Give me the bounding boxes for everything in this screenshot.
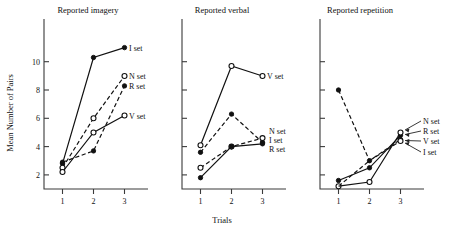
- svg-text:1: 1: [199, 197, 203, 206]
- panel2-x-ticks: [201, 189, 263, 194]
- panel3-x-ticks: [339, 189, 401, 194]
- panel1-y-tick-labels: 2 4 6 8 10: [32, 58, 40, 180]
- panel2-label-v-set: V set: [267, 72, 284, 81]
- panel2-y-ticks: [182, 62, 187, 175]
- panel3-series-labels: N set R set V set I set: [423, 117, 440, 157]
- panel3-label-r-set: R set: [423, 127, 440, 136]
- svg-text:2: 2: [92, 197, 96, 206]
- panel3-axes: [320, 19, 424, 189]
- panel2-series-n-set: [198, 136, 265, 171]
- panel1-label-n-set: N set: [129, 72, 146, 81]
- panel1-title: Reported imagery: [57, 5, 119, 15]
- panel3-leader-lines: [405, 121, 421, 152]
- panel2-label-n-set: N set: [269, 127, 286, 136]
- panel1-x-tick-labels: 1 2 3: [61, 197, 127, 206]
- panel-reported-repetition: Reported repetition 1 2 3: [320, 5, 440, 206]
- panel1-series-i-set: I set: [60, 44, 143, 166]
- svg-text:1: 1: [337, 197, 341, 206]
- svg-text:6: 6: [36, 114, 40, 123]
- x-axis-title: Trials: [212, 215, 232, 225]
- svg-text:3: 3: [261, 197, 265, 206]
- panel3-label-v-set: V set: [423, 137, 440, 146]
- panel2-label-i-set: I set: [269, 136, 283, 145]
- panel1-label-i-set: I set: [129, 44, 143, 53]
- panel1-label-r-set: R set: [129, 82, 146, 91]
- panel3-series-i-set: [336, 88, 402, 163]
- panel1-y-ticks: [44, 62, 49, 175]
- svg-text:2: 2: [230, 197, 234, 206]
- panel1-label-v-set: V set: [129, 112, 146, 121]
- panel2-axes: [182, 19, 286, 189]
- panel3-y-ticks: [320, 62, 325, 175]
- svg-text:10: 10: [32, 58, 40, 67]
- panel3-title: Reported repetition: [327, 5, 394, 15]
- panel3-series-r-set: [336, 133, 402, 183]
- panel1-series-v-set: V set: [60, 112, 146, 175]
- panel2-title: Reported verbal: [195, 5, 250, 15]
- panel3-label-n-set: N set: [423, 117, 440, 126]
- panel-reported-verbal: Reported verbal 1 2 3 V set: [182, 5, 286, 225]
- panel1-series-r-set: R set: [60, 82, 146, 164]
- panel1-x-ticks: [63, 189, 125, 194]
- svg-text:3: 3: [123, 197, 127, 206]
- panel2-series-r-set: [198, 142, 264, 180]
- panel3-label-i-set: I set: [423, 148, 437, 157]
- svg-text:1: 1: [61, 197, 65, 206]
- panel2-label-r-set: R set: [269, 145, 286, 154]
- svg-text:2: 2: [368, 197, 372, 206]
- panel2-cluster-labels: N set I set R set: [269, 127, 286, 154]
- panel-reported-imagery: Reported imagery 2 4 6 8 10 1 2 3: [32, 5, 148, 206]
- three-panel-line-chart: Mean Number of Pairs Reported imagery 2 …: [0, 0, 456, 237]
- panel3-series-n-set: [339, 130, 404, 186]
- svg-text:3: 3: [399, 197, 403, 206]
- panel3-x-tick-labels: 1 2 3: [337, 197, 403, 206]
- y-axis-title: Mean Number of Pairs: [5, 74, 15, 152]
- svg-text:8: 8: [36, 86, 40, 95]
- panel2-x-tick-labels: 1 2 3: [199, 197, 265, 206]
- svg-text:2: 2: [36, 171, 40, 180]
- svg-text:4: 4: [36, 143, 40, 152]
